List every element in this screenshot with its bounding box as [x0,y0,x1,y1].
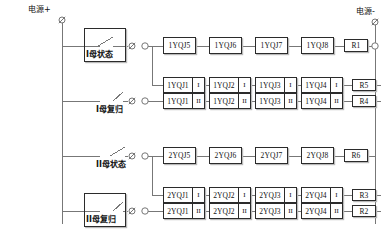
component-row5-3-roman: I [284,188,296,202]
component-row4-2[interactable]: 2YQJ6 [209,147,242,164]
component-row2-1[interactable]: 1YQJ1 I [163,77,205,93]
component-row4-3[interactable]: 2YQJ7 [255,147,288,164]
resistor-row6[interactable]: R2 [352,205,376,217]
component-row5-4[interactable]: 2YQJ4 I [301,187,343,203]
power-negative-label: 电源- [356,8,375,16]
component-row2-4-roman: I [330,78,342,92]
switch-blade-bus1-reset [113,92,123,101]
component-row1-3[interactable]: 1YQJ7 [255,37,288,54]
component-row5-1[interactable]: 2YQJ1 I [163,187,205,203]
input-label-bus1-reset: I母复归 [96,106,123,114]
component-row3-1-roman: II [192,94,204,108]
component-row5-4-label: 2YQJ4 [302,188,330,202]
open-terminal-bus1-reset [142,98,148,104]
component-row5-4-roman: I [330,188,342,202]
component-row2-4-label: 1YQJ4 [302,78,330,92]
component-row6-3-roman: II [284,204,296,218]
resistor-row4[interactable]: R6 [344,149,368,162]
component-row3-4[interactable]: 1YQJ4 II [301,93,343,109]
component-row5-1-roman: I [192,188,204,202]
component-row6-2-roman: II [238,204,250,218]
component-row6-1[interactable]: 2YQJ1 II [163,203,205,219]
resistor-row3[interactable]: R4 [352,95,376,107]
component-row5-2[interactable]: 2YQJ2 I [209,187,251,203]
input-label-bus2-reset: II母复归 [86,216,116,224]
component-row3-2-label: 1YQJ2 [210,94,238,108]
component-row2-4[interactable]: 1YQJ4 I [301,77,343,93]
open-terminal-bus2-status [142,153,148,159]
component-row6-4-label: 2YQJ4 [302,204,330,218]
component-row5-2-label: 2YQJ2 [210,188,238,202]
component-row3-1-label: 1YQJ1 [164,94,192,108]
open-terminal-bus1-status [142,43,148,49]
component-row3-2[interactable]: 1YQJ2 II [209,93,251,109]
component-row3-3-label: 1YQJ3 [256,94,284,108]
component-row6-1-label: 2YQJ1 [164,204,192,218]
component-row2-2-roman: I [238,78,250,92]
component-row1-4[interactable]: 1YQJ8 [301,37,334,54]
component-row4-1[interactable]: 2YQJ5 [163,147,196,164]
input-label-bus2-status: II母状态 [96,161,126,169]
component-row2-3-roman: I [284,78,296,92]
component-row3-4-roman: II [330,94,342,108]
resistor-row5[interactable]: R3 [352,189,376,201]
component-row6-3[interactable]: 2YQJ3 II [255,203,297,219]
power-positive-label: 电源+ [28,6,51,14]
component-row5-3[interactable]: 2YQJ3 I [255,187,297,203]
component-row2-2-label: 1YQJ2 [210,78,238,92]
component-row6-4-roman: II [330,204,342,218]
component-row3-1[interactable]: 1YQJ1 II [163,93,205,109]
open-terminal-row1-rail [372,43,378,49]
component-row1-2[interactable]: 1YQJ6 [209,37,242,54]
component-row3-4-label: 1YQJ4 [302,94,330,108]
circuit-diagram: 电源+ 电源- I母状态 I母复归 II母状态 II母复归 1YQJ5 1YQJ… [0,0,386,238]
component-row4-4[interactable]: 2YQJ8 [301,147,334,164]
open-terminal-bus2-reset [142,208,148,214]
component-row3-3[interactable]: 1YQJ3 II [255,93,297,109]
component-row2-3-label: 1YQJ3 [256,78,284,92]
component-row6-2[interactable]: 2YQJ2 II [209,203,251,219]
component-row2-3[interactable]: 1YQJ3 I [255,77,297,93]
input-label-bus1-status: I母状态 [86,51,113,59]
component-row6-2-label: 2YQJ2 [210,204,238,218]
component-row6-1-roman: II [192,204,204,218]
resistor-row1[interactable]: R1 [344,39,368,52]
switch-blade-bus2-status [110,147,125,156]
component-row2-2[interactable]: 1YQJ2 I [209,77,251,93]
component-row1-1[interactable]: 1YQJ5 [163,37,196,54]
component-row5-3-label: 2YQJ3 [256,188,284,202]
component-row6-3-label: 2YQJ3 [256,204,284,218]
component-row3-2-roman: II [238,94,250,108]
component-row2-1-roman: I [192,78,204,92]
component-row5-2-roman: I [238,188,250,202]
resistor-row2[interactable]: R5 [352,79,376,91]
component-row5-1-label: 2YQJ1 [164,188,192,202]
component-row6-4[interactable]: 2YQJ4 II [301,203,343,219]
component-row2-1-label: 1YQJ1 [164,78,192,92]
component-row3-3-roman: II [284,94,296,108]
